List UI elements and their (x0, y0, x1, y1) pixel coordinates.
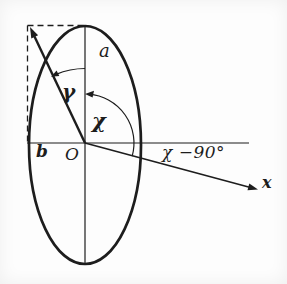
label-origin: O (65, 146, 79, 163)
label-semi-minor-b: b (36, 143, 48, 160)
diagonal-arrow-shaft (35, 37, 86, 144)
label-x-axis: x (262, 175, 272, 191)
gamma-arc-path (56, 69, 85, 75)
label-chi-minus-90: χ −90° (162, 144, 225, 161)
x-axis-arrow-head-icon (248, 184, 259, 191)
diagonal-arrow (30, 27, 85, 143)
figure-canvas: a γ χ O b χ −90° x (0, 0, 287, 284)
label-angle-gamma: γ (62, 82, 75, 102)
gamma-angle-arc (51, 69, 85, 77)
label-angle-chi: χ (92, 110, 106, 131)
label-semi-major-a: a (99, 42, 110, 60)
chi-arc-arrowhead-icon (85, 91, 94, 98)
diagonal-arrow-head-icon (30, 27, 38, 39)
